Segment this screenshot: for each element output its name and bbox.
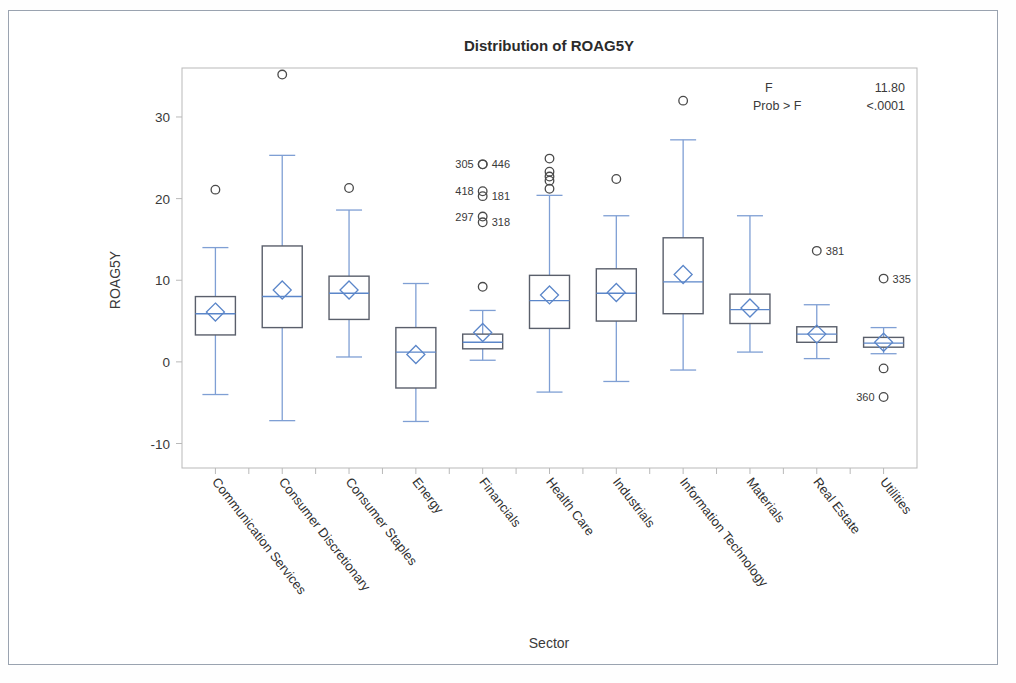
- box-plot: [195, 185, 235, 394]
- y-tick-label: -10: [150, 437, 170, 452]
- screenshot-page: Distribution of ROAG5Y F 11.80 Prob > F …: [0, 0, 1016, 683]
- outlier-label: 418: [455, 185, 473, 197]
- box-plot: [530, 154, 570, 392]
- box-plot: [262, 70, 302, 420]
- outlier-point: [545, 185, 554, 194]
- box-plot: [329, 184, 369, 357]
- y-axis-title: ROAG5Y: [107, 250, 123, 309]
- y-tick-label: 30: [155, 110, 170, 125]
- outlier-label: 335: [893, 273, 911, 285]
- outlier-point: [345, 184, 354, 193]
- outlier-label: 381: [826, 245, 844, 257]
- x-axis-ticks: [215, 468, 883, 474]
- y-axis-ticks: -100102030: [150, 110, 182, 452]
- outlier-point: [278, 70, 287, 79]
- outlier-label: 181: [492, 190, 510, 202]
- prob-value: <.0001: [866, 99, 905, 113]
- box-plots-layer: 305446418181297318381335360: [195, 70, 911, 421]
- box-plot: [730, 216, 770, 352]
- outlier-label: 305: [455, 158, 473, 170]
- outlier-label: 360: [856, 391, 874, 403]
- outlier-point: [879, 364, 888, 373]
- box-iqr: [329, 276, 369, 319]
- outlier-label: 318: [492, 216, 510, 228]
- x-axis-category-label: Financials: [476, 475, 524, 531]
- box-iqr: [396, 328, 436, 388]
- outlier-point: [478, 282, 487, 291]
- x-axis-category-label: Energy: [409, 475, 446, 517]
- box-iqr: [530, 275, 570, 328]
- boxplot-chart: Distribution of ROAG5Y F 11.80 Prob > F …: [0, 0, 1016, 683]
- box-plot: 335360: [856, 273, 911, 403]
- box-plot: [596, 175, 636, 382]
- outlier-label: 297: [455, 211, 473, 223]
- outlier-point: [545, 154, 554, 163]
- page-title: Distribution of ROAG5Y: [464, 37, 634, 54]
- x-axis-category-label: Health Care: [543, 475, 598, 539]
- x-axis-category-label: Utilities: [877, 475, 915, 518]
- box-plot: 305446418181297318: [455, 158, 510, 360]
- x-axis-category-label: Real Estate: [810, 475, 863, 537]
- box-plot: 381: [797, 245, 844, 359]
- box-iqr: [864, 337, 904, 347]
- x-axis-category-label: Materials: [744, 475, 789, 526]
- outlier-point: [879, 393, 888, 402]
- outlier-point: [879, 274, 888, 283]
- y-tick-label: 10: [155, 273, 170, 288]
- box-iqr: [596, 269, 636, 321]
- y-tick-label: 20: [155, 192, 170, 207]
- outlier-point: [812, 247, 821, 256]
- outlier-point: [612, 175, 621, 184]
- x-axis-category-labels: Communication ServicesConsumer Discretio…: [209, 475, 915, 598]
- f-value: 11.80: [875, 81, 905, 95]
- outlier-point: [478, 160, 487, 169]
- chart-svg: Distribution of ROAG5Y F 11.80 Prob > F …: [0, 0, 1016, 683]
- f-label: F: [765, 81, 773, 95]
- box-iqr: [663, 238, 703, 314]
- box-iqr: [262, 246, 302, 328]
- x-axis-category-label: Industrials: [610, 475, 659, 531]
- outlier-point: [211, 185, 220, 194]
- box-plot: [663, 96, 703, 370]
- box-plot: [396, 284, 436, 422]
- outlier-label: 446: [492, 158, 510, 170]
- outlier-point: [478, 218, 487, 227]
- y-tick-label: 0: [162, 355, 170, 370]
- x-axis-category-label: Consumer Staples: [343, 475, 421, 569]
- prob-label: Prob > F: [753, 99, 802, 113]
- statistics-annotation: F 11.80 Prob > F <.0001: [753, 81, 905, 113]
- outlier-point: [679, 96, 688, 105]
- x-axis-title: Sector: [529, 635, 570, 651]
